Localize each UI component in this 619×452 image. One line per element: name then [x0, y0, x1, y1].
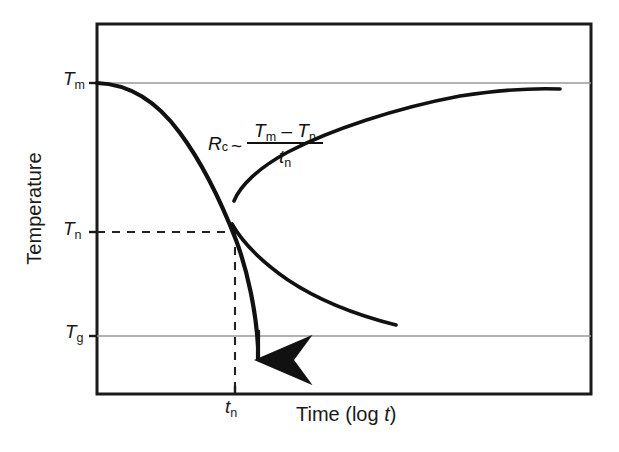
formula-numerator-symbol-1: T [254, 120, 266, 141]
chart-canvas [0, 0, 619, 452]
x-axis-title-suffix: ) [390, 403, 397, 425]
plot-frame [97, 24, 591, 394]
formula-numerator-symbol-2: T [297, 120, 309, 141]
formula-numerator-subscript-2: n [309, 130, 316, 144]
x-tick-subscript-tn: n [230, 406, 237, 420]
x-axis-title: Time (log t) [296, 403, 396, 426]
y-tick-symbol-tn: T [63, 218, 75, 239]
formula-relation-operator: ~ [231, 135, 242, 157]
x-axis-title-prefix: Time (log [296, 403, 384, 425]
formula-denominator: tn [279, 144, 291, 167]
y-axis-title: Temperature [23, 109, 46, 309]
critical-cooling-rate-formula: Rc ~ Tm – Tn tn [208, 120, 323, 167]
formula-minus-operator: – [281, 120, 292, 141]
formula-denominator-subscript: n [284, 156, 291, 170]
y-tick-symbol-tm: T [63, 68, 75, 89]
y-tick-subscript-tm: m [75, 78, 85, 92]
formula-numerator-subscript-1: m [266, 130, 276, 144]
y-tick-label-tn: Tn [63, 218, 82, 240]
y-tick-symbol-tg: T [65, 321, 77, 342]
x-tick-label-tn: tn [225, 396, 237, 418]
y-tick-subscript-tn: n [75, 228, 82, 242]
thermal-cooling-rate-chart: Temperature Time (log t) Tm Tn Tg tn Rc … [0, 0, 619, 452]
ttt-nose-lower-branch [232, 224, 396, 325]
y-tick-subscript-tg: g [77, 331, 84, 345]
y-tick-label-tm: Tm [63, 68, 85, 90]
formula-lhs-symbol: R [208, 133, 222, 155]
formula-fraction: Tm – Tn tn [247, 120, 323, 167]
y-tick-label-tg: Tg [65, 321, 84, 343]
formula-lhs-subscript: c [222, 140, 228, 154]
formula-numerator: Tm – Tn [247, 120, 323, 142]
